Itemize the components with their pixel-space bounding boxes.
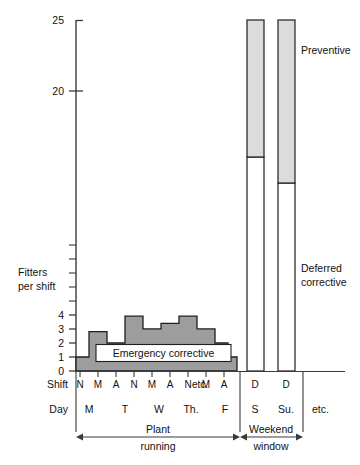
day-label-wednesday: W	[154, 403, 164, 415]
weekend-window-label-line2: window	[252, 440, 288, 452]
y-axis: 25 20 4 3 2 1 0 Fitters per shift	[18, 14, 83, 377]
day-label-tuesday: T	[122, 403, 129, 415]
shift-etc-label: etc.	[192, 379, 208, 390]
y-axis-title-line2: per shift	[18, 280, 55, 292]
y-tick-label-1: 1	[58, 351, 64, 363]
y-tick-label-4: 4	[58, 309, 64, 321]
sunday-deferred-corrective-segment	[278, 183, 295, 371]
span-arrows: Plant running Weekend window	[76, 423, 303, 452]
day-label-sunday: Su.	[278, 403, 294, 415]
preventive-annotation-label: Preventive	[301, 44, 351, 56]
y-tick-label-20: 20	[52, 85, 64, 97]
shift-label-d2: D	[282, 379, 289, 390]
shift-label-a1: A	[113, 379, 120, 390]
day-label-thursday: Th.	[183, 403, 198, 415]
plant-running-arrow-right	[233, 434, 240, 441]
emergency-corrective-inline-label: Emergency corrective	[96, 345, 231, 362]
shift-row: Shift N M A N M A N M A etc. D D	[47, 378, 290, 390]
y-tick-label-3: 3	[58, 323, 64, 335]
emergency-corrective-step-series	[76, 316, 237, 371]
shift-label-d1: D	[251, 379, 258, 390]
deferred-corrective-annotation-line1: Deferred	[301, 262, 342, 274]
weekend-window-arrow-left	[240, 434, 247, 441]
day-label-saturday: S	[251, 403, 258, 415]
saturday-deferred-corrective-segment	[247, 157, 264, 371]
shift-label-m2: M	[148, 379, 156, 390]
maintenance-workload-chart: 25 20 4 3 2 1 0 Fitters per shift Emerge…	[0, 0, 360, 465]
weekend-window-label-line1: Weekend	[249, 423, 293, 435]
y-tick-label-0: 0	[58, 365, 64, 377]
emergency-corrective-label-text: Emergency corrective	[113, 347, 215, 359]
weekend-window-arrow-right	[296, 434, 303, 441]
y-axis-title-line1: Fitters	[18, 266, 47, 278]
day-row: Day M T W Th. F S Su. etc.	[49, 403, 329, 415]
sunday-preventive-segment	[278, 20, 295, 183]
shift-label-n1: N	[76, 379, 83, 390]
plant-running-label-line2: running	[140, 440, 175, 452]
weekend-bar-sunday	[278, 20, 295, 371]
plant-running-arrow-left	[76, 434, 83, 441]
shift-label-a2: A	[167, 379, 174, 390]
plant-running-label-line1: Plant	[146, 423, 170, 435]
weekend-bar-saturday	[247, 20, 264, 371]
day-etc-label: etc.	[312, 403, 329, 415]
shift-label-a3: A	[221, 379, 228, 390]
y-tick-label-2: 2	[58, 337, 64, 349]
day-label-monday: M	[85, 403, 94, 415]
shift-label-n3: N	[184, 379, 191, 390]
shift-row-label: Shift	[47, 378, 68, 390]
deferred-corrective-annotation-line2: corrective	[301, 276, 347, 288]
y-tick-label-25: 25	[52, 14, 64, 26]
shift-label-m1: M	[94, 379, 102, 390]
day-row-label: Day	[49, 403, 68, 415]
saturday-preventive-segment	[247, 20, 264, 157]
chart-canvas: 25 20 4 3 2 1 0 Fitters per shift Emerge…	[0, 0, 360, 465]
day-label-friday: F	[222, 403, 228, 415]
emergency-corrective-step-path	[76, 316, 237, 371]
shift-label-n2: N	[130, 379, 137, 390]
